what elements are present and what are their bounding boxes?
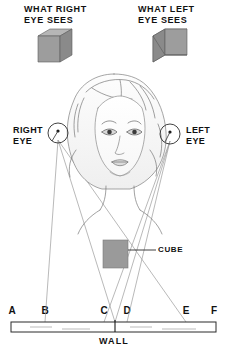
scene-cube (103, 240, 156, 268)
wall-mark-d: D (120, 305, 134, 316)
label-left-eye: LEFT EYE (186, 125, 210, 147)
wall-mark-a: A (5, 305, 19, 316)
cube-left-front-face (165, 29, 187, 55)
cube-right-front-face (38, 36, 60, 62)
wall-mark-c: C (97, 305, 111, 316)
ray-right-eye-to-b (45, 140, 58, 322)
right-eye-marker-stem (52, 131, 58, 141)
cube-left-eye-view (153, 29, 187, 62)
cube-right-eye-view (38, 29, 72, 62)
wall-mark-f: F (207, 305, 221, 316)
title-what-left-eye-sees: WHAT LEFT EYE SEES (138, 4, 195, 26)
label-cube: CUBE (158, 244, 183, 255)
wall-mark-b: B (38, 305, 52, 316)
label-wall: WALL (99, 336, 129, 347)
title-what-right-eye-sees: WHAT RIGHT EYE SEES (24, 4, 87, 26)
neck-right (134, 186, 140, 210)
wall-group (11, 320, 216, 332)
pupil-left (132, 130, 137, 135)
woman-head-illustration (67, 74, 166, 234)
pupil-right (107, 130, 112, 135)
label-right-eye: RIGHT EYE (13, 125, 43, 147)
wall-mark-e: E (179, 305, 193, 316)
scene-cube-face (103, 240, 128, 268)
vector-layer (0, 0, 226, 348)
diagram-canvas: WHAT RIGHT EYE SEES WHAT LEFT EYE SEES R… (0, 0, 226, 348)
